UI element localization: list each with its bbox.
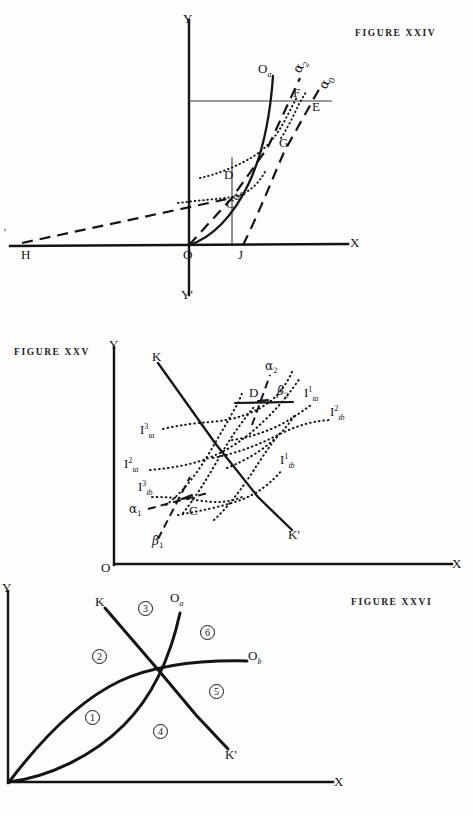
figure-xxiv-point-d-label: D — [224, 168, 233, 181]
document-page: FIGURE XXIV Y Y' X ' O H J C D G F E Oa … — [0, 0, 473, 816]
figure-xxv-alpha2-label: α2 — [265, 360, 278, 375]
curve-itb-2 — [213, 420, 330, 458]
figure-xxv-indiff-itb-1-label: I1tb — [280, 453, 295, 470]
figure-xxv-indiff-itb-3-label: I3tb — [138, 480, 153, 497]
figure-xxvi-caption: FIGURE XXVI — [351, 597, 432, 607]
point-d-marker — [258, 400, 268, 401]
figure-xxvi-y-axis-label: Y — [2, 581, 11, 594]
figure-xxv-indiff-ita-2-label: I2ta — [124, 457, 139, 474]
figure-xxiv-point-e-label: E — [312, 100, 320, 113]
figure-xxiv-y-axis-label: Y — [183, 12, 192, 25]
segment-beta2 — [235, 402, 293, 403]
figure-xxiv-origin-label: O — [183, 248, 192, 261]
line-alpha0 — [243, 84, 322, 245]
figure-xxv-beta1-label: β1 — [152, 535, 164, 550]
curve-cross-c — [214, 433, 280, 520]
figure-xxiv-point-g-label: G — [279, 136, 288, 149]
figure-xxvi-region-2: 2 — [92, 649, 107, 664]
figure-xxvi-region-1: 1 — [85, 710, 100, 725]
figure-xxv-line-kprime-label: K' — [288, 528, 300, 541]
figure-xxiv-yprime-axis-label: Y' — [181, 288, 193, 301]
figure-xxv-beta2-label: β2 — [277, 385, 289, 400]
curve-ita-1 — [232, 405, 311, 440]
figure-xxv: FIGURE XXV Y X O K K' C D α1 α2 β1 β2 I3… — [0, 325, 473, 575]
segment-beta1 — [158, 477, 190, 539]
figure-xxiv-x-axis-label: X — [350, 236, 359, 249]
figure-xxv-y-axis-label: Y — [109, 338, 118, 351]
figure-xxvi-region-4: 4 — [153, 724, 168, 739]
figure-xxiv-caption: FIGURE XXIV — [355, 28, 436, 38]
figure-xxv-alpha1-label: α1 — [129, 503, 142, 518]
figure-xxvi-x-axis-label: X — [334, 775, 343, 788]
figure-xxv-indiff-itb-2-label: I2tb — [330, 405, 345, 422]
figure-xxv-caption: FIGURE XXV — [14, 347, 90, 357]
figure-xxiv-point-h-label: H — [21, 248, 30, 261]
figure-xxvi-curve-oa-label: Oa — [170, 591, 183, 608]
figure-xxiv-point-j-label: J — [238, 248, 243, 261]
figure-xxvi-region-6: 6 — [200, 625, 215, 640]
figure-xxvi-region-5: 5 — [209, 684, 224, 699]
figure-xxv-indiff-ita-1-label: I1ta — [304, 386, 319, 403]
figure-xxiv: FIGURE XXIV Y Y' X ' O H J C D G F E Oa … — [0, 0, 473, 318]
figure-xxiv-curve-oa-label: Oa — [258, 62, 271, 79]
curve-ita-3 — [163, 372, 292, 429]
curve-itb-3 — [152, 497, 242, 502]
figure-xxiv-point-f-label: F — [293, 86, 300, 99]
figure-xxvi-line-k-label: K — [95, 595, 104, 608]
figure-xxv-point-c-label: C — [189, 504, 198, 517]
figure-xxiv-xprime-axis-label: ' — [4, 227, 6, 238]
x-axis-line — [10, 244, 348, 246]
figure-xxvi-curve-ob-label: Ob — [248, 649, 261, 666]
curve-cross-a — [166, 391, 243, 505]
figure-xxvi-line-kprime-label: K' — [225, 748, 237, 761]
figure-xxvi-region-3: 3 — [138, 601, 153, 616]
figure-xxv-indiff-ita-3-label: I3ta — [140, 423, 155, 440]
line-kk-prime — [158, 363, 292, 530]
figure-xxv-point-d-label: D — [249, 386, 258, 399]
figure-xxvi: FIGURE XXVI Y X K K' Oa Ob 1 2 3 4 5 6 — [0, 555, 473, 816]
figure-xxv-line-k-label: K — [152, 350, 161, 363]
line-h-to-c — [22, 198, 232, 243]
